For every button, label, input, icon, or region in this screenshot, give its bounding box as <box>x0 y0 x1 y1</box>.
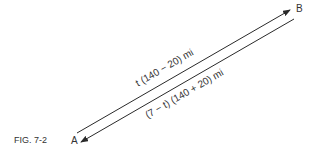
figure-caption: FIG. 7-2 <box>14 135 47 145</box>
arrow-a-to-b <box>77 10 290 133</box>
arrow-b-to-a <box>81 19 294 142</box>
point-a-label: A <box>71 135 78 146</box>
point-b-label: B <box>296 3 303 14</box>
